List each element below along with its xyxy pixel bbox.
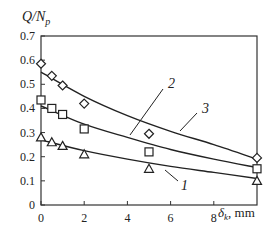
diamond-marker [47,71,56,80]
triangle-marker [58,141,67,149]
curve-label: 3 [201,101,209,116]
y-tick-label: 0.1 [20,174,35,188]
x-tick-label: 6 [168,211,174,225]
y-axis-label: Q/Np [22,9,50,27]
diamond-marker [80,99,89,108]
y-tick-label: 0.5 [20,77,35,91]
fit-curves [41,72,257,178]
y-tick-label: 0.6 [20,53,35,67]
square-marker [80,125,88,133]
x-tick-label: 0 [38,211,44,225]
x-axis-label: δk, mm [218,205,255,222]
curve-label: 1 [181,178,188,193]
y-tick-label: 0.3 [20,126,35,140]
data-markers [37,59,262,184]
x-tick-label: 2 [81,211,87,225]
y-tick-label: 0 [29,198,35,212]
axes: 00.10.20.30.40.50.60.702468 [20,29,257,225]
square-marker [37,96,45,104]
leader-line [130,89,163,135]
leader-line [165,170,178,181]
triangle-marker [145,164,154,172]
triangle-marker [37,133,46,141]
y-tick-label: 0.2 [20,150,35,164]
y-tick-label: 0.4 [20,101,35,115]
square-marker [253,165,261,173]
square-marker [145,148,153,156]
fit-curve-3 [41,72,257,159]
x-tick-label: 8 [211,211,217,225]
leader-line [180,113,197,131]
diamond-marker [145,129,154,138]
square-marker [48,104,56,112]
x-tick-label: 4 [124,211,130,225]
y-tick-label: 0.7 [20,29,35,43]
curve-label: 2 [168,76,175,91]
curve-labels: 231 [130,76,209,193]
diamond-marker [253,153,262,162]
square-marker [59,110,67,118]
chart: 00.10.20.30.40.50.60.702468 231 Q/Np δk,… [0,0,279,238]
